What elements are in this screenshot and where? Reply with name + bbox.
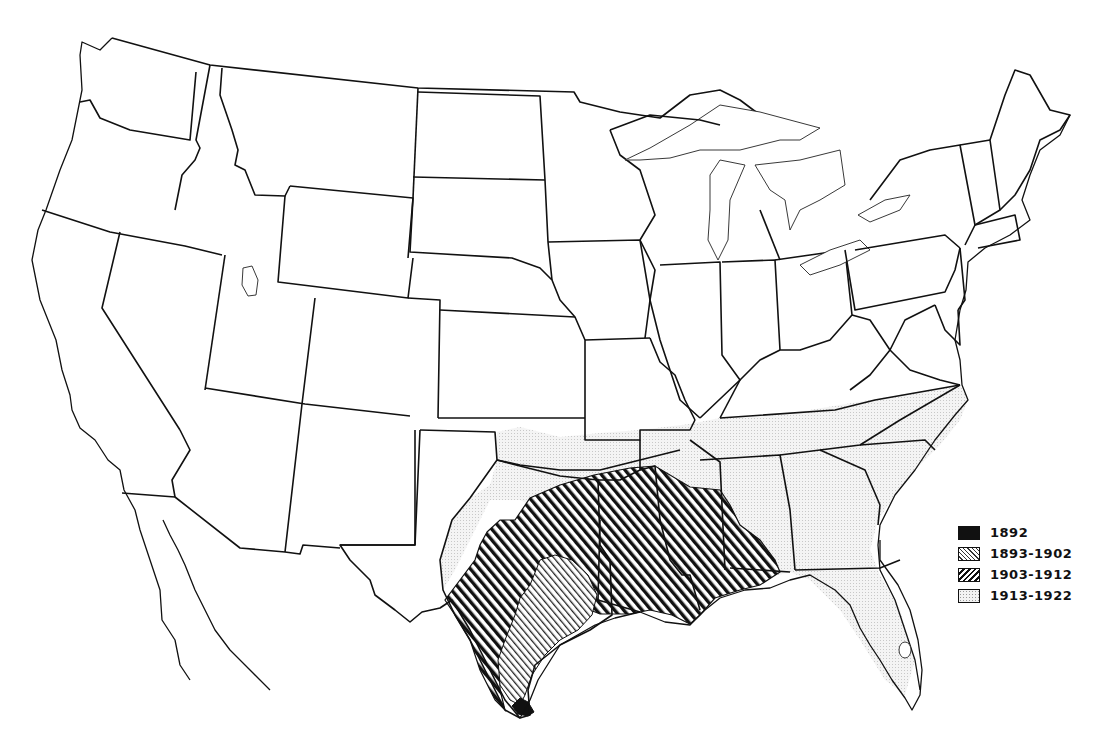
legend-label: 1892 bbox=[990, 525, 1028, 540]
map-legend: 1892 1893-1902 1903-1912 1913-1922 bbox=[958, 522, 1088, 606]
legend-label: 1913-1922 bbox=[990, 588, 1072, 603]
legend-item-1903-1912: 1903-1912 bbox=[958, 564, 1088, 585]
legend-swatch-solid-icon bbox=[958, 526, 980, 540]
lake-okeechobee bbox=[899, 642, 911, 658]
legend-swatch-stipple-icon bbox=[958, 589, 980, 603]
legend-swatch-light-hatch-icon bbox=[958, 547, 980, 561]
great-lakes bbox=[625, 105, 910, 275]
legend-item-1893-1902: 1893-1902 bbox=[958, 543, 1088, 564]
legend-label: 1893-1902 bbox=[990, 546, 1072, 561]
baja-peninsula bbox=[163, 520, 270, 690]
pacific-coast bbox=[32, 38, 190, 680]
legend-label: 1903-1912 bbox=[990, 567, 1072, 582]
legend-item-1913-1922: 1913-1922 bbox=[958, 585, 1088, 606]
great-salt-lake bbox=[242, 266, 258, 296]
canada-border bbox=[112, 38, 760, 118]
northeast-states bbox=[610, 70, 1070, 345]
western-states bbox=[42, 65, 440, 552]
us-map bbox=[0, 0, 1096, 740]
mexico-border bbox=[122, 493, 340, 554]
legend-item-1892: 1892 bbox=[958, 522, 1088, 543]
legend-swatch-heavy-hatch-icon bbox=[958, 568, 980, 582]
